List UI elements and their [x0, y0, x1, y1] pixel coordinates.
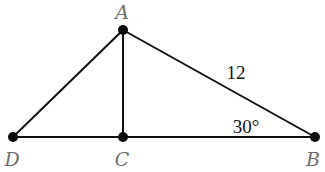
point-D — [8, 132, 18, 142]
point-A — [118, 25, 128, 35]
segment-AB — [123, 30, 315, 137]
label-C: C — [115, 148, 130, 170]
triangle-diagram: A D C B 12 30° — [0, 0, 325, 172]
point-B — [310, 132, 320, 142]
label-D: D — [3, 148, 19, 170]
label-A: A — [113, 1, 129, 23]
label-B: B — [305, 148, 320, 170]
segment-AD — [13, 30, 123, 137]
segments — [13, 30, 315, 137]
point-C — [118, 132, 128, 142]
points — [8, 25, 320, 142]
vertex-labels: A D C B — [3, 1, 320, 170]
angle-B-measure: 30° — [233, 116, 260, 137]
measurements: 12 30° — [227, 62, 260, 137]
side-length-AB: 12 — [227, 62, 246, 83]
